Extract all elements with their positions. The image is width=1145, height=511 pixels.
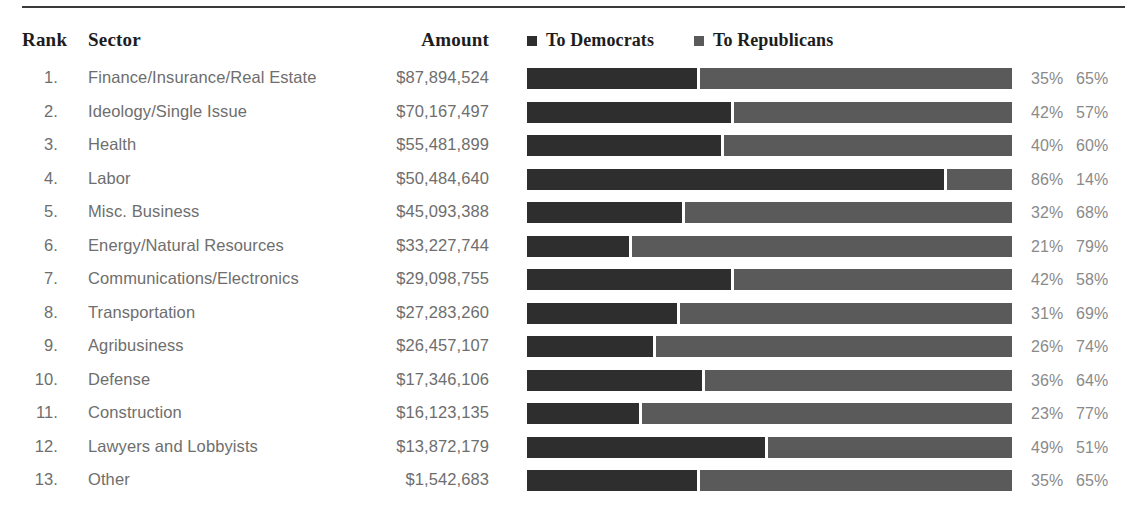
percent-democrats: 26% [1031,336,1063,357]
bar-segment-republicans [768,437,1012,458]
table-row: 2.Ideology/Single Issue$70,167,49742%57% [0,97,1145,131]
bar-segment-republicans [700,68,1012,89]
bar-segment-democrats [527,303,677,324]
percent-democrats: 49% [1031,437,1063,458]
cell-sector: Transportation [88,302,195,323]
stacked-bar [527,202,1012,223]
percent-democrats: 40% [1031,135,1063,156]
cell-amount: $70,167,497 [396,101,489,122]
percent-republicans: 14% [1076,169,1108,190]
percent-democrats: 35% [1031,470,1063,491]
stacked-bar [527,336,1012,357]
cell-rank: 6. [44,235,58,256]
stacked-bar [527,236,1012,257]
column-header-rank: Rank [22,29,67,51]
cell-rank: 10. [35,369,58,390]
bar-segment-republicans [724,135,1012,156]
cell-amount: $50,484,640 [396,168,489,189]
bar-segment-republicans [680,303,1012,324]
cell-amount: $27,283,260 [396,302,489,323]
table-row: 3.Health$55,481,89940%60% [0,130,1145,164]
percent-republicans: 77% [1076,403,1108,424]
table-row: 9.Agribusiness$26,457,10726%74% [0,331,1145,365]
percent-democrats: 35% [1031,68,1063,89]
cell-rank: 5. [44,201,58,222]
percent-republicans: 60% [1076,135,1108,156]
legend-swatch-icon [527,36,537,46]
cell-rank: 12. [35,436,58,457]
column-header-amount: Amount [421,29,489,51]
legend-item-democrats: To Democrats [527,30,654,51]
bar-segment-democrats [527,236,629,257]
cell-sector: Ideology/Single Issue [88,101,247,122]
cell-sector: Misc. Business [88,201,199,222]
cell-sector: Labor [88,168,131,189]
legend-label: To Democrats [546,30,654,51]
cell-rank: 2. [44,101,58,122]
percent-republicans: 65% [1076,470,1108,491]
cell-sector: Other [88,469,130,490]
cell-amount: $17,346,106 [396,369,489,390]
cell-amount: $16,123,135 [396,402,489,423]
bar-segment-democrats [527,403,639,424]
stacked-bar [527,370,1012,391]
bar-segment-democrats [527,202,682,223]
percent-democrats: 31% [1031,303,1063,324]
percent-democrats: 23% [1031,403,1063,424]
percent-republicans: 51% [1076,437,1108,458]
stacked-bar [527,403,1012,424]
cell-rank: 7. [44,268,58,289]
percent-democrats: 42% [1031,269,1063,290]
cell-rank: 4. [44,168,58,189]
cell-amount: $13,872,179 [396,436,489,457]
bar-segment-democrats [527,336,653,357]
bar-segment-republicans [734,269,1012,290]
table-row: 1.Finance/Insurance/Real Estate$87,894,5… [0,63,1145,97]
stacked-bar [527,303,1012,324]
legend-item-republicans: To Republicans [694,30,833,51]
bar-segment-democrats [527,68,697,89]
table-row: 7.Communications/Electronics$29,098,7554… [0,264,1145,298]
cell-amount: $26,457,107 [396,335,489,356]
column-header-sector: Sector [88,29,141,51]
bar-segment-republicans [700,470,1012,491]
bar-segment-republicans [642,403,1012,424]
stacked-bar [527,269,1012,290]
bar-segment-republicans [947,169,1012,190]
bar-segment-republicans [734,102,1012,123]
cell-rank: 11. [36,402,58,423]
bar-segment-democrats [527,437,765,458]
bar-segment-democrats [527,269,731,290]
cell-amount: $55,481,899 [396,134,489,155]
percent-republicans: 65% [1076,68,1108,89]
bar-segment-democrats [527,470,697,491]
percent-republicans: 57% [1076,102,1108,123]
cell-sector: Construction [88,402,182,423]
cell-sector: Energy/Natural Resources [88,235,284,256]
cell-rank: 13. [35,469,58,490]
table-row: 5.Misc. Business$45,093,38832%68% [0,197,1145,231]
table-row: 8.Transportation$27,283,26031%69% [0,298,1145,332]
stacked-bar [527,470,1012,491]
cell-sector: Communications/Electronics [88,268,299,289]
table-row: 10.Defense$17,346,10636%64% [0,365,1145,399]
bar-segment-republicans [685,202,1012,223]
stacked-bar [527,169,1012,190]
legend-label: To Republicans [713,30,833,51]
percent-democrats: 42% [1031,102,1063,123]
cell-amount: $45,093,388 [396,201,489,222]
bar-segment-republicans [656,336,1012,357]
legend-swatch-icon [694,36,704,46]
stacked-bar [527,68,1012,89]
table-row: 4.Labor$50,484,64086%14% [0,164,1145,198]
bar-segment-democrats [527,102,731,123]
cell-rank: 8. [44,302,58,323]
cell-sector: Defense [88,369,150,390]
percent-democrats: 32% [1031,202,1063,223]
percent-republicans: 74% [1076,336,1108,357]
cell-sector: Finance/Insurance/Real Estate [88,67,317,88]
percent-republicans: 68% [1076,202,1108,223]
cell-amount: $33,227,744 [396,235,489,256]
stacked-bar [527,437,1012,458]
percent-republicans: 64% [1076,370,1108,391]
